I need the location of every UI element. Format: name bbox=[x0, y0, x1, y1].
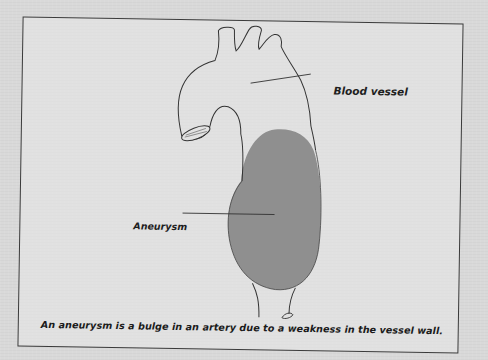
vessel-wall-left bbox=[240, 134, 243, 181]
aneurysm-bulge bbox=[227, 128, 322, 290]
figure-frame: Blood vessel Aneurysm An aneurysm is a b… bbox=[17, 17, 463, 354]
blood-vessel-label: Blood vessel bbox=[333, 84, 408, 97]
vessel-outline-outer bbox=[178, 25, 313, 138]
vessel-lumen-opening bbox=[180, 123, 212, 144]
aorta-aneurysm-illustration bbox=[18, 18, 464, 355]
aneurysm-label: Aneurysm bbox=[133, 220, 187, 232]
vessel-outline-inner bbox=[210, 106, 241, 134]
vessel-torn-end bbox=[282, 313, 293, 319]
vessel-lower-left bbox=[252, 283, 260, 317]
vessel-lower-right bbox=[289, 288, 295, 314]
